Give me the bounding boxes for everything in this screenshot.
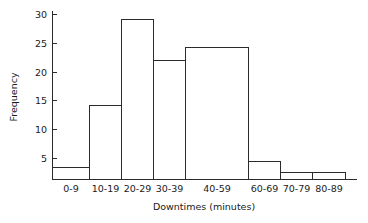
bar-70-79 (281, 173, 313, 180)
x-axis-title: Downtimes (minutes) (153, 201, 255, 212)
x-tick-label-10-19: 10-19 (92, 183, 120, 194)
bar-0-9 (53, 168, 90, 180)
x-tick-label-40-59: 40-59 (203, 183, 231, 194)
bars-group (53, 20, 346, 180)
x-tick-label-80-89: 80-89 (315, 183, 343, 194)
x-tick-label-20-29: 20-29 (124, 183, 152, 194)
x-tick-label-60-69: 60-69 (251, 183, 279, 194)
histogram-figure: 30 25 20 15 10 5 Frequency (0, 0, 368, 223)
y-axis-title: Frequency (8, 72, 19, 121)
x-tick-label-70-79: 70-79 (283, 183, 311, 194)
bar-60-69 (249, 162, 281, 180)
y-tick-label-15: 15 (35, 95, 47, 106)
y-tick-label-25: 25 (35, 38, 47, 49)
y-tick-label-10: 10 (35, 124, 47, 135)
x-tick-marks (53, 175, 346, 180)
bar-40-59 (186, 48, 249, 180)
y-tick-label-5: 5 (41, 153, 47, 164)
bar-80-89 (313, 173, 346, 180)
bar-10-19 (90, 106, 122, 180)
y-tick-label-20: 20 (35, 67, 47, 78)
x-tick-label-30-39: 30-39 (156, 183, 184, 194)
x-tick-label-0-9: 0-9 (63, 183, 79, 194)
bar-20-29 (122, 20, 154, 180)
y-tick-marks (53, 15, 58, 158)
bar-30-39 (154, 61, 186, 180)
y-tick-label-30: 30 (35, 9, 47, 20)
histogram-plot: 30 25 20 15 10 5 Frequency (0, 0, 368, 223)
